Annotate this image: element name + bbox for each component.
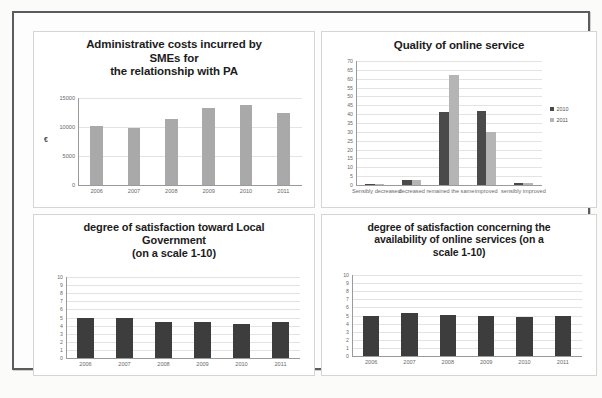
x-axis-tick-label: 2008 bbox=[442, 359, 454, 365]
y-axis-tick-label: 25 bbox=[347, 138, 356, 144]
bar-series bbox=[352, 275, 582, 356]
bar bbox=[440, 315, 456, 356]
y-axis-tick-label: 15 bbox=[347, 155, 356, 161]
legend-label: 2011 bbox=[557, 117, 569, 123]
legend: 20102011 bbox=[550, 106, 569, 128]
bar-series bbox=[356, 61, 542, 185]
gridline bbox=[66, 358, 300, 359]
y-axis-tick-label: 45 bbox=[347, 102, 356, 108]
title-line-3: (on a scale 1-10) bbox=[48, 247, 300, 260]
x-axis-tick-label: 2010 bbox=[235, 361, 247, 367]
y-axis-tick-label: 60 bbox=[347, 76, 356, 82]
bar bbox=[516, 317, 532, 356]
x-axis-tick-label: 2009 bbox=[202, 188, 214, 194]
y-axis-tick-label: 15000 bbox=[59, 95, 78, 101]
panel-border: degree of satisfaction concerning the av… bbox=[321, 214, 597, 376]
gridline bbox=[356, 185, 542, 186]
x-axis-tick-label: 2011 bbox=[277, 188, 289, 194]
title-line-2: Government bbox=[48, 234, 300, 247]
panel-border: Administrative costs incurred by SMEs fo… bbox=[33, 31, 315, 208]
legend-item: 2010 bbox=[550, 106, 569, 112]
y-axis-tick-label: 50 bbox=[347, 93, 356, 99]
legend-swatch bbox=[550, 118, 554, 122]
x-axis-tick-label: 2009 bbox=[196, 361, 208, 367]
bar bbox=[555, 316, 571, 357]
title-line-1: Quality of online service bbox=[332, 39, 586, 53]
panel-border: Quality of online service 70656055504540… bbox=[321, 31, 597, 208]
y-axis-tick-label: 65 bbox=[347, 67, 356, 73]
y-axis-tick-label: 10 bbox=[347, 164, 356, 170]
y-axis-unit-euro: € bbox=[44, 136, 48, 143]
bar bbox=[240, 105, 253, 185]
bar bbox=[277, 113, 290, 186]
bar bbox=[401, 313, 417, 356]
panel-border: degree of satisfaction toward Local Gove… bbox=[33, 214, 315, 376]
x-axis-tick-label: 2006 bbox=[90, 188, 102, 194]
bar bbox=[486, 132, 496, 185]
bar bbox=[365, 184, 375, 185]
bar bbox=[363, 316, 379, 357]
bar bbox=[412, 180, 422, 185]
bar bbox=[194, 322, 210, 358]
y-axis-tick-label: 30 bbox=[347, 129, 356, 135]
x-axis-tick-label: 2007 bbox=[118, 361, 130, 367]
x-axis-tick-label: 2006 bbox=[365, 359, 377, 365]
plot-area-satisfaction-online-availability: 109876543210 bbox=[352, 275, 582, 356]
title-line-2: SMEs for bbox=[48, 52, 300, 66]
bar bbox=[439, 112, 449, 185]
y-axis-tick-label: 35 bbox=[347, 120, 356, 126]
x-axis-tick-label: 2010 bbox=[518, 359, 530, 365]
bar-series bbox=[78, 98, 302, 185]
bar bbox=[478, 316, 494, 357]
y-axis-tick-label: 10 bbox=[343, 272, 352, 278]
bar bbox=[90, 126, 103, 185]
bar bbox=[402, 180, 412, 185]
legend-item: 2011 bbox=[550, 117, 569, 123]
title-line-1: degree of satisfaction toward Local bbox=[48, 221, 300, 234]
panel-quality-online-service: Quality of online service 70656055504540… bbox=[318, 28, 600, 211]
bar bbox=[233, 324, 249, 358]
title-line-3: the relationship with PA bbox=[48, 65, 300, 79]
chart-title-administrative-costs: Administrative costs incurred by SMEs fo… bbox=[34, 32, 314, 79]
panel-satisfaction-online-availability: degree of satisfaction concerning the av… bbox=[318, 211, 600, 379]
title-line-3: scale 1-10) bbox=[332, 246, 586, 258]
chart-title-quality-online-service: Quality of online service bbox=[322, 32, 596, 53]
plot-area-administrative-costs: 050001000015000 bbox=[78, 98, 302, 185]
x-axis-tick-label: 2011 bbox=[274, 361, 286, 367]
legend-label: 2010 bbox=[557, 106, 569, 112]
gridline bbox=[78, 185, 302, 186]
x-axis-tick-label: 2007 bbox=[128, 188, 140, 194]
y-axis-tick-label: 55 bbox=[347, 85, 356, 91]
bar-series bbox=[66, 277, 300, 358]
y-axis-tick-label: 10 bbox=[57, 274, 66, 280]
bar bbox=[272, 322, 288, 358]
bar bbox=[477, 111, 487, 185]
x-axis-tick-label: 2011 bbox=[557, 359, 569, 365]
panel-administrative-costs: Administrative costs incurred by SMEs fo… bbox=[30, 28, 318, 211]
x-axis-tick-label: 2006 bbox=[79, 361, 91, 367]
bar bbox=[77, 318, 93, 358]
x-axis-tick-label: 2008 bbox=[165, 188, 177, 194]
bar bbox=[449, 75, 459, 185]
bar bbox=[514, 183, 524, 185]
y-axis-tick-label: 20 bbox=[347, 147, 356, 153]
panel-satisfaction-local-government: degree of satisfaction toward Local Gove… bbox=[30, 211, 318, 379]
y-axis-tick-label: 5000 bbox=[63, 153, 78, 159]
bar bbox=[128, 128, 141, 185]
chart-grid: Administrative costs incurred by SMEs fo… bbox=[30, 28, 600, 379]
title-line-1: degree of satisfaction concerning the bbox=[332, 221, 586, 233]
bar bbox=[523, 183, 533, 185]
plot-area-quality-online-service: 7065605550454035302520151050 bbox=[356, 61, 542, 185]
title-line-2: availability of online services (on a bbox=[332, 233, 586, 245]
x-axis-tick-label: 2008 bbox=[157, 361, 169, 367]
bar bbox=[165, 119, 178, 185]
title-line-1: Administrative costs incurred by bbox=[48, 38, 300, 52]
x-axis-tick-label: sensibly improved bbox=[501, 188, 546, 195]
plot-area-satisfaction-local-government: 109876543210 bbox=[66, 277, 300, 358]
figure-sheet: Administrative costs incurred by SMEs fo… bbox=[0, 0, 602, 398]
x-axis-tick-label: 2009 bbox=[480, 359, 492, 365]
bar bbox=[155, 322, 171, 358]
x-axis-tick-label: 2010 bbox=[240, 188, 252, 194]
y-axis-tick-label: 40 bbox=[347, 111, 356, 117]
bar bbox=[116, 318, 132, 358]
